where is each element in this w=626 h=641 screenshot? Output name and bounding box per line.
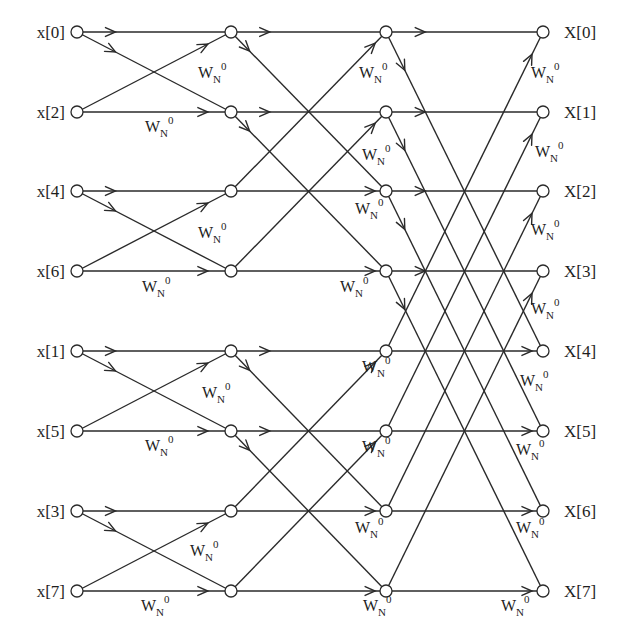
- node-c0-r2: [71, 185, 83, 197]
- input-label: x[3]: [37, 502, 65, 521]
- node-c3-r7: [537, 585, 549, 597]
- node-c2-r0: [380, 26, 392, 38]
- node-c0-r5: [71, 425, 83, 437]
- svg-text:W: W: [141, 597, 157, 614]
- svg-text:0: 0: [385, 354, 391, 366]
- svg-text:N: N: [535, 381, 543, 393]
- svg-text:0: 0: [168, 114, 174, 126]
- fft-butterfly-diagram: x[0]x[2]x[4]x[6]x[1]x[5]x[3]x[7]X[0]X[1]…: [0, 0, 626, 641]
- twiddle-factor-label: WN0: [535, 139, 564, 164]
- svg-text:N: N: [550, 152, 558, 164]
- svg-text:W: W: [520, 372, 536, 389]
- flow-arrows: [105, 28, 532, 596]
- flow-edges: [77, 32, 543, 591]
- input-label: x[2]: [37, 103, 65, 122]
- twiddle-factor-label: WN0: [141, 593, 170, 618]
- twiddle-factor-label: WN0: [145, 433, 174, 458]
- node-c1-r6: [225, 505, 237, 517]
- svg-text:W: W: [516, 441, 532, 458]
- output-label: X[7]: [564, 582, 596, 601]
- node-c0-r0: [71, 26, 83, 38]
- svg-text:W: W: [359, 64, 375, 81]
- node-c0-r7: [71, 585, 83, 597]
- svg-text:W: W: [363, 597, 379, 614]
- twiddle-factor-label: WN0: [516, 437, 545, 462]
- node-c2-r1: [380, 106, 392, 118]
- svg-text:N: N: [531, 528, 539, 540]
- svg-text:W: W: [142, 278, 158, 295]
- twiddle-factor-label: WN0: [145, 114, 174, 139]
- svg-text:N: N: [546, 73, 554, 85]
- node-c0-r3: [71, 265, 83, 277]
- svg-text:0: 0: [554, 296, 560, 308]
- svg-text:W: W: [516, 519, 532, 536]
- output-label: X[1]: [564, 103, 596, 122]
- svg-text:N: N: [205, 551, 213, 563]
- svg-text:0: 0: [382, 60, 388, 72]
- svg-text:N: N: [378, 606, 386, 618]
- output-label: X[6]: [564, 502, 596, 521]
- svg-text:0: 0: [378, 515, 384, 527]
- input-label: x[6]: [37, 262, 65, 281]
- svg-text:0: 0: [164, 593, 170, 605]
- svg-text:W: W: [535, 143, 551, 160]
- output-label: X[0]: [564, 23, 596, 42]
- twiddle-labels: WN0WN0WN0WN0WN0WN0WN0WN0WN0WN0WN0WN0WN0W…: [141, 60, 564, 618]
- svg-text:W: W: [340, 278, 356, 295]
- node-c2-r3: [380, 265, 392, 277]
- svg-text:0: 0: [539, 515, 545, 527]
- twiddle-factor-label: WN0: [362, 142, 391, 167]
- twiddle-factor-label: WN0: [501, 593, 530, 618]
- svg-text:W: W: [362, 146, 378, 163]
- svg-text:N: N: [374, 73, 382, 85]
- svg-text:N: N: [546, 230, 554, 242]
- twiddle-factor-label: WN0: [531, 60, 560, 85]
- svg-text:N: N: [217, 393, 225, 405]
- node-c3-r3: [537, 265, 549, 277]
- svg-text:N: N: [213, 73, 221, 85]
- svg-text:W: W: [531, 300, 547, 317]
- svg-text:W: W: [362, 438, 378, 455]
- twiddle-factor-label: WN0: [362, 434, 391, 459]
- svg-text:W: W: [362, 358, 378, 375]
- svg-text:N: N: [160, 127, 168, 139]
- svg-text:0: 0: [385, 434, 391, 446]
- svg-text:0: 0: [554, 217, 560, 229]
- node-c0-r4: [71, 345, 83, 357]
- svg-text:N: N: [546, 309, 554, 321]
- twiddle-factor-label: WN0: [520, 368, 549, 393]
- twiddle-factor-label: WN0: [198, 220, 227, 245]
- svg-text:0: 0: [213, 538, 219, 550]
- svg-text:W: W: [501, 597, 517, 614]
- node-c1-r4: [225, 345, 237, 357]
- node-c1-r7: [225, 585, 237, 597]
- svg-text:N: N: [531, 450, 539, 462]
- twiddle-factor-label: WN0: [516, 515, 545, 540]
- svg-text:N: N: [157, 287, 165, 299]
- svg-text:0: 0: [385, 142, 391, 154]
- node-c1-r2: [225, 185, 237, 197]
- node-c0-r1: [71, 106, 83, 118]
- node-c3-r0: [537, 26, 549, 38]
- svg-text:W: W: [531, 221, 547, 238]
- svg-text:0: 0: [363, 274, 369, 286]
- output-label: X[2]: [564, 182, 596, 201]
- twiddle-factor-label: WN0: [190, 538, 219, 563]
- svg-text:W: W: [202, 384, 218, 401]
- node-c3-r5: [537, 425, 549, 437]
- svg-text:0: 0: [524, 593, 530, 605]
- svg-text:0: 0: [543, 368, 549, 380]
- twiddle-factor-label: WN0: [355, 515, 384, 540]
- svg-text:N: N: [377, 447, 385, 459]
- svg-text:W: W: [145, 118, 161, 135]
- node-c3-r1: [537, 106, 549, 118]
- svg-text:W: W: [198, 224, 214, 241]
- svg-text:N: N: [370, 528, 378, 540]
- svg-text:0: 0: [386, 593, 392, 605]
- svg-text:0: 0: [558, 139, 564, 151]
- node-c3-r4: [537, 345, 549, 357]
- twiddle-factor-label: WN0: [340, 274, 369, 299]
- svg-text:0: 0: [221, 220, 227, 232]
- svg-text:W: W: [198, 64, 214, 81]
- output-label: X[3]: [564, 262, 596, 281]
